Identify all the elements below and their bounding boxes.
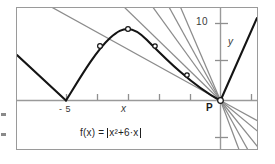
formula-body: x²+6·x bbox=[109, 127, 138, 138]
page-artifact-mark bbox=[1, 113, 6, 116]
y-axis-tick-label-10: 10 bbox=[196, 17, 208, 27]
intersection-marker bbox=[126, 27, 131, 32]
plot-canvas bbox=[0, 0, 275, 164]
page-artifact-mark bbox=[1, 133, 6, 136]
point-p-label: P bbox=[206, 103, 213, 113]
intersection-marker bbox=[185, 73, 189, 77]
formula-absolute-value: x²+6·x bbox=[107, 128, 140, 138]
point-p-marker bbox=[218, 98, 224, 104]
x-axis-label: x bbox=[121, 104, 126, 114]
x-axis-tick-label-minus5: - 5 bbox=[59, 105, 71, 114]
intersection-marker bbox=[153, 44, 157, 48]
figure-container: 10 y - 5 x P f(x) = x²+6·x bbox=[0, 0, 275, 164]
intersection-marker bbox=[98, 44, 103, 49]
function-formula: f(x) = x²+6·x bbox=[80, 128, 141, 138]
formula-prefix: f(x) = bbox=[80, 127, 107, 138]
y-axis-label: y bbox=[228, 37, 233, 47]
